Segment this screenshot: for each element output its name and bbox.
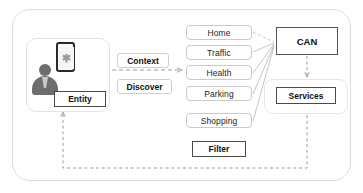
filter-node[interactable]: Filter <box>192 141 246 157</box>
can-node[interactable]: CAN <box>276 27 338 55</box>
connector-services-feedback <box>63 112 307 168</box>
label-discover: Discover <box>117 79 172 94</box>
context-item-parking[interactable]: Parking <box>186 86 252 101</box>
phone-screen <box>59 47 74 69</box>
services-node[interactable]: Services <box>276 87 336 104</box>
context-item-home[interactable]: Home <box>186 25 252 40</box>
avatar-head <box>39 64 51 76</box>
connector-list-to-can <box>253 32 274 42</box>
diagram-canvas: Entity Context Discover Home Traffic Hea… <box>0 0 363 193</box>
label-context: Context <box>117 53 169 68</box>
smartphone-icon <box>56 42 75 72</box>
context-item-traffic[interactable]: Traffic <box>186 45 252 60</box>
context-item-shopping[interactable]: Shopping <box>186 113 252 128</box>
entity-node[interactable]: Entity <box>54 91 106 107</box>
app-icon <box>62 54 71 63</box>
context-item-health[interactable]: Health <box>186 65 252 80</box>
